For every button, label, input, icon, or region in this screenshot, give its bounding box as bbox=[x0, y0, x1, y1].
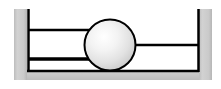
left-wall-block bbox=[14, 9, 27, 80]
diagram-canvas bbox=[0, 0, 221, 89]
ball bbox=[85, 20, 136, 71]
right-wall-block bbox=[199, 9, 212, 80]
ball-in-container-figure bbox=[0, 0, 221, 89]
ball-group bbox=[85, 20, 136, 71]
